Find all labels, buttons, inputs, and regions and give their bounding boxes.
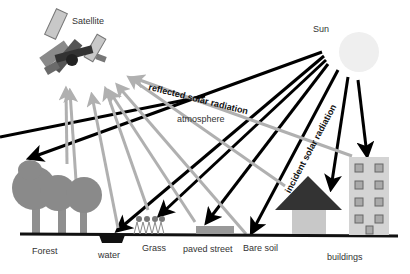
sun-label: Sun: [313, 24, 329, 34]
ground-line: [20, 234, 398, 236]
sun-icon: [339, 32, 379, 72]
grass-icon: [134, 216, 165, 234]
grass-label: Grass: [142, 243, 166, 253]
atmosphere-label: atmosphere: [177, 114, 225, 124]
paved-street-icon: [196, 226, 234, 234]
bare-soil-label: Bare soil: [243, 243, 278, 253]
water-icon: [99, 235, 125, 243]
buildings-label: buildings: [327, 252, 363, 262]
satellite-label: Satellite: [72, 16, 104, 26]
forest-icon: [12, 160, 102, 235]
paved-street-label: paved street: [183, 244, 233, 254]
solar-radiation-diagram: [0, 0, 410, 274]
building-icon: [349, 157, 389, 235]
forest-label: Forest: [32, 246, 58, 256]
water-label: water: [98, 250, 120, 260]
